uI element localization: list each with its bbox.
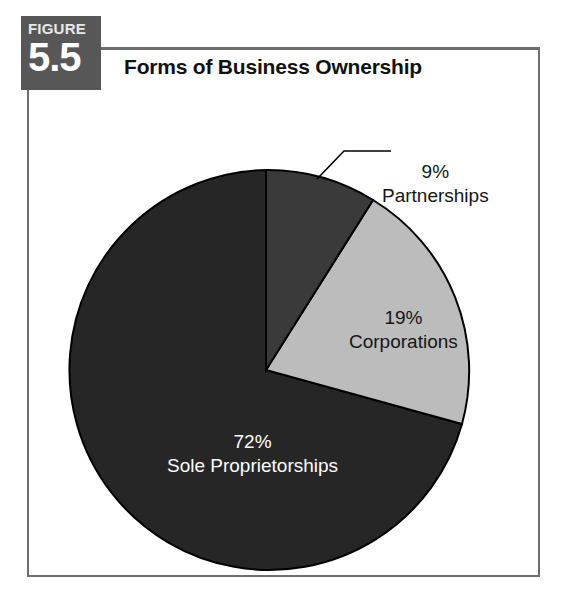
figure-badge-number: 5.5 [28, 36, 101, 78]
sole-percent: 72% [167, 430, 338, 454]
pie-label-corporations: 19% Corporations [349, 306, 458, 354]
corporations-percent: 19% [349, 306, 458, 330]
pie-label-partnerships: 9% Partnerships [382, 160, 489, 208]
pie-chart-area: 9% Partnerships 19% Corporations 72% Sol… [27, 48, 540, 577]
figure-container: FIGURE 5.5 Forms of Business Ownership 9… [0, 0, 568, 592]
sole-name: Sole Proprietorships [167, 454, 338, 478]
partnerships-name: Partnerships [382, 184, 489, 208]
figure-number-badge: FIGURE 5.5 [21, 16, 101, 90]
pie-label-sole-proprietorships: 72% Sole Proprietorships [167, 430, 338, 478]
corporations-name: Corporations [349, 330, 458, 354]
pie-chart-svg [27, 48, 540, 577]
partnerships-leader-line [317, 151, 391, 179]
partnerships-percent: 9% [382, 160, 489, 184]
